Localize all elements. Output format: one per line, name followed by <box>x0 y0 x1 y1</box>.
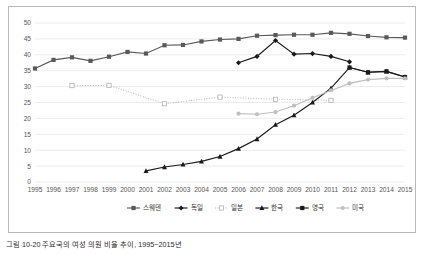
x-axis-tick-label: 2011 <box>324 186 339 193</box>
y-axis-tick-label: 50 <box>24 19 32 26</box>
y-axis-tick-label: 35 <box>24 67 32 74</box>
legend-item-5[interactable]: 미국 <box>336 203 364 212</box>
x-axis-tick-label: 2001 <box>139 186 154 193</box>
x-axis-tick-label: 2002 <box>157 186 172 193</box>
chart-plot-frame: 0510152025303540455019951996199719981999… <box>8 6 416 233</box>
x-axis-tick-label: 2006 <box>231 186 246 193</box>
series-4 <box>347 65 407 79</box>
legend-label: 미국 <box>352 203 364 212</box>
figure-caption: 그림 10-20 주요국의 여성 의원 비율 추이, 1995~2015년 <box>6 240 421 249</box>
x-axis-tick-label: 2012 <box>342 186 357 193</box>
y-axis-tick-label: 40 <box>24 51 32 58</box>
x-axis-tick-label: 1998 <box>83 186 98 193</box>
x-axis-tick-label: 2015 <box>398 186 413 193</box>
x-axis-tick-label: 2005 <box>213 186 228 193</box>
x-axis-tick-label: 2010 <box>305 186 320 193</box>
x-axis-tick-label: 1997 <box>65 186 80 193</box>
legend-item-3[interactable]: 한국 <box>255 204 283 212</box>
legend-label: 일본 <box>231 203 243 211</box>
x-axis-tick-label: 2004 <box>194 186 209 193</box>
series-1 <box>236 38 352 65</box>
y-axis-tick-label: 10 <box>24 147 32 154</box>
y-axis-tick-label: 15 <box>24 131 32 138</box>
x-axis-tick-label: 2008 <box>268 186 283 193</box>
legend-item-1[interactable]: 독일 <box>175 203 203 212</box>
y-axis-tick-label: 0 <box>27 178 31 185</box>
y-axis-tick-label: 45 <box>24 35 32 42</box>
legend-item-2[interactable]: 일본 <box>215 203 243 211</box>
line-chart-svg: 0510152025303540455019951996199719981999… <box>9 7 415 232</box>
x-axis-tick-label: 2007 <box>250 186 265 193</box>
x-axis-tick-label: 2003 <box>176 186 191 193</box>
y-axis-tick-label: 30 <box>24 83 32 90</box>
legend-label: 한국 <box>271 204 283 212</box>
figure-container: 0510152025303540455019951996199719981999… <box>0 0 425 254</box>
y-axis-tick-label: 25 <box>24 99 32 106</box>
series-0 <box>33 31 407 71</box>
y-axis-tick-label: 20 <box>24 115 32 122</box>
legend-label: 스웨덴 <box>143 203 161 212</box>
x-axis-tick-label: 1996 <box>46 186 61 193</box>
x-axis-tick-label: 1995 <box>28 186 43 193</box>
y-axis-tick-label: 5 <box>27 163 31 170</box>
x-axis-tick-label: 2013 <box>361 186 376 193</box>
legend-label: 독일 <box>191 203 203 212</box>
legend-item-0[interactable]: 스웨덴 <box>127 203 161 212</box>
series-5 <box>236 76 407 116</box>
x-axis-tick-label: 2000 <box>120 186 135 193</box>
x-axis-tick-label: 2009 <box>287 186 302 193</box>
x-axis-tick-label: 2014 <box>379 186 394 193</box>
x-axis-tick-label: 1999 <box>102 186 117 193</box>
legend-label: 영국 <box>312 203 324 212</box>
legend-item-4[interactable]: 영국 <box>296 203 324 212</box>
